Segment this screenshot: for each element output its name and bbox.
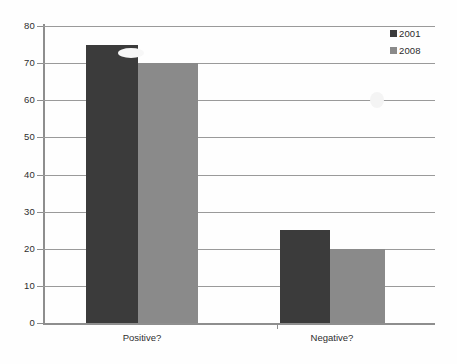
y-tick-label: 20 xyxy=(5,244,35,254)
bar-2001-negative xyxy=(280,230,330,323)
y-tick-label: 10 xyxy=(5,281,35,291)
y-tick-label: 0 xyxy=(5,318,35,328)
axis-baseline xyxy=(43,323,435,325)
bar-2008-positive xyxy=(138,63,198,323)
x-category-label: Negative? xyxy=(272,333,392,343)
bar-2001-positive xyxy=(86,45,138,323)
y-tick-label: 80 xyxy=(5,21,35,31)
y-tick-label: 60 xyxy=(5,95,35,105)
x-category-label: Positive? xyxy=(82,333,202,343)
legend-item-2008[interactable]: 2008 xyxy=(390,43,450,58)
gridline xyxy=(43,26,435,27)
y-tick-mark xyxy=(37,323,43,324)
legend-label: 2008 xyxy=(399,46,421,56)
legend-swatch-icon xyxy=(390,47,397,54)
y-tick-label: 30 xyxy=(5,207,35,217)
chart-legend: 20012008 xyxy=(390,26,450,60)
y-tick-mark xyxy=(37,100,43,101)
y-tick-label: 70 xyxy=(5,58,35,68)
bar-chart: 01020304050607080 20012008 Positive?Nega… xyxy=(0,0,457,364)
y-tick-label: 50 xyxy=(5,132,35,142)
legend-swatch-icon xyxy=(390,30,397,37)
plot-area xyxy=(43,26,435,323)
legend-label: 2001 xyxy=(399,29,421,39)
y-tick-mark xyxy=(37,26,43,27)
bar-2008-negative xyxy=(330,249,385,323)
y-tick-label: 40 xyxy=(5,170,35,180)
y-tick-mark xyxy=(37,137,43,138)
legend-item-2001[interactable]: 2001 xyxy=(390,26,450,41)
y-tick-mark xyxy=(37,286,43,287)
y-tick-mark xyxy=(37,212,43,213)
y-tick-mark xyxy=(37,63,43,64)
x-tick-mark xyxy=(277,323,278,329)
y-tick-mark xyxy=(37,175,43,176)
y-axis-labels: 01020304050607080 xyxy=(0,0,35,364)
y-tick-mark xyxy=(37,249,43,250)
